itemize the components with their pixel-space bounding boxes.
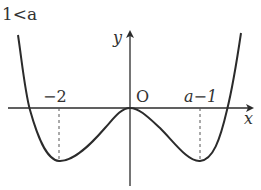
x-axis-label: x [244,109,253,128]
origin-label: O [136,87,149,106]
condition-label: 1<a [2,4,37,24]
y-axis-label: y [112,28,123,47]
tick-label-right-min: a−1 [184,87,217,106]
function-graph: 1<a y O −2 a−1 x [0,0,261,190]
tick-label-left-min: −2 [43,87,67,106]
